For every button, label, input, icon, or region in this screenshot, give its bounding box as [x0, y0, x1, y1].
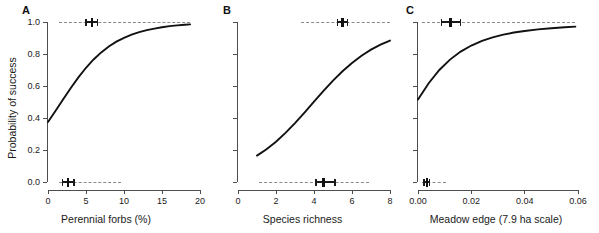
y-tick-label: 0.4 [27, 113, 40, 123]
x-tick-mark [86, 190, 87, 194]
x-tick-label: 0 [235, 196, 240, 206]
logistic-curve [48, 24, 190, 122]
x-tick-label: 0 [45, 196, 50, 206]
plot-area-b: 02468 [238, 22, 390, 182]
error-bar-cap-high [97, 19, 98, 26]
error-bar-failure-group-mean [316, 181, 335, 182]
x-tick-label: 20 [195, 196, 205, 206]
curve-layer-b [238, 22, 390, 182]
y-tick-mark [233, 118, 237, 119]
y-tick-mark [413, 182, 417, 183]
y-tick-mark [413, 150, 417, 151]
x-tick-mark [418, 190, 419, 194]
panel-a: A Probability of success 1.00.80.60.40.2… [0, 0, 212, 233]
error-bar-mean-marker [91, 18, 93, 27]
y-tick-mark [413, 118, 417, 119]
y-tick-label: 0.8 [27, 49, 40, 59]
y-tick-mark [413, 86, 417, 87]
x-tick-mark [162, 190, 163, 194]
y-tick-mark [43, 150, 47, 151]
y-tick-mark [43, 86, 47, 87]
y-tick-mark [43, 182, 47, 183]
y-tick-mark [233, 22, 237, 23]
error-bar-cap-high [460, 19, 461, 26]
figure-panel-group: A Probability of success 1.00.80.60.40.2… [0, 0, 599, 233]
y-tick-mark [233, 182, 237, 183]
x-tick-mark [276, 190, 277, 194]
curve-layer-c [418, 22, 578, 182]
error-bar-cap-low [62, 179, 63, 186]
x-tick-label: 0.06 [569, 196, 587, 206]
x-tick-mark [578, 190, 579, 194]
x-tick-mark [48, 190, 49, 194]
error-bar-mean-marker [341, 18, 343, 27]
error-bar-cap-high [334, 179, 335, 186]
y-tick-label: 0.2 [27, 145, 40, 155]
x-tick-mark [238, 190, 239, 194]
x-tick-label: 10 [119, 196, 129, 206]
error-bar-cap-low [85, 19, 86, 26]
y-tick-mark [233, 150, 237, 151]
x-tick-mark [471, 190, 472, 194]
x-tick-mark [124, 190, 125, 194]
logistic-curve [418, 27, 575, 100]
error-bar-cap-low [441, 19, 442, 26]
x-tick-label: 15 [157, 196, 167, 206]
y-tick-mark [233, 54, 237, 55]
x-tick-label: 4 [311, 196, 316, 206]
panel-letter-c: C [406, 4, 414, 16]
x-tick-label: 0.00 [409, 196, 427, 206]
y-tick-mark [43, 22, 47, 23]
plot-area-a: 1.00.80.60.40.20.005101520 [48, 22, 200, 182]
x-tick-mark [524, 190, 525, 194]
error-bar-cap-low [315, 179, 316, 186]
y-tick-label: 0.6 [27, 81, 40, 91]
x-tick-label: 8 [387, 196, 392, 206]
panel-b: B 02468 Species richness [205, 0, 400, 233]
error-bar-cap-low [337, 19, 338, 26]
y-tick-mark [413, 22, 417, 23]
y-tick-mark [43, 118, 47, 119]
plot-area-c: 0.000.020.040.06 [418, 22, 578, 182]
error-bar-cap-low [423, 179, 424, 186]
x-tick-mark [390, 190, 391, 194]
panel-c: C 0.000.020.040.06 Meadow edge (7.9 ha s… [393, 0, 599, 233]
y-tick-label: 1.0 [27, 17, 40, 27]
x-axis-label-a: Perennial forbs (%) [0, 213, 212, 225]
y-tick-mark [413, 54, 417, 55]
y-tick-mark [43, 54, 47, 55]
curve-layer-a [48, 22, 200, 182]
reference-line-failure-level [259, 182, 369, 183]
x-axis-label-c: Meadow edge (7.9 ha scale) [393, 213, 599, 225]
panel-letter-a: A [22, 4, 30, 16]
x-axis-label-b: Species richness [205, 213, 400, 225]
x-axis-line [418, 190, 578, 191]
error-bar-cap-high [73, 179, 74, 186]
x-tick-mark [352, 190, 353, 194]
x-tick-label: 0.02 [463, 196, 481, 206]
x-tick-mark [200, 190, 201, 194]
x-tick-label: 6 [349, 196, 354, 206]
panel-letter-b: B [223, 4, 231, 16]
error-bar-mean-marker [426, 178, 428, 187]
error-bar-cap-high [429, 179, 430, 186]
x-tick-mark [314, 190, 315, 194]
x-tick-label: 2 [273, 196, 278, 206]
y-axis-label: Probability of success [6, 38, 18, 178]
y-tick-mark [233, 86, 237, 87]
error-bar-mean-marker [67, 178, 69, 187]
x-tick-label: 5 [83, 196, 88, 206]
error-bar-cap-high [347, 19, 348, 26]
y-tick-label: 0.0 [27, 177, 40, 187]
logistic-curve [257, 41, 390, 156]
error-bar-mean-marker [322, 178, 324, 187]
x-tick-label: 0.04 [516, 196, 534, 206]
error-bar-mean-marker [449, 18, 451, 27]
